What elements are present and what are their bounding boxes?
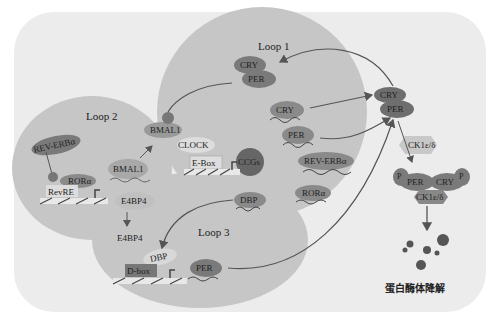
degradation-label: 蛋白酶体降解 <box>385 282 445 294</box>
ccgs-label: CCGs <box>238 157 261 167</box>
clock-label: CLOCK <box>178 140 209 150</box>
loop2-bmal1-label: BMAL1 <box>113 164 144 174</box>
kinase-label: CK1ε/δ <box>408 140 436 150</box>
cyto-per-label: PER <box>387 104 404 114</box>
degradation-dot <box>407 241 414 248</box>
ebox-label: E-Box <box>192 158 216 168</box>
cyto-cry-label: CRY <box>380 90 399 100</box>
degradation-dot <box>437 234 449 246</box>
degradation-dot <box>416 260 426 270</box>
loop2-label: Loop 2 <box>86 110 117 122</box>
loop1-per-mrna-label: PER <box>288 130 305 140</box>
dbox-label: D-box <box>127 266 150 276</box>
degradation-dot <box>435 251 440 256</box>
loop1-rev-erba-label: REV-ERBα <box>304 156 347 166</box>
loop3-label: Loop 3 <box>198 226 230 238</box>
bmal1-label: BMAL1 <box>150 125 181 135</box>
bmal1-inhibition-node <box>162 112 174 124</box>
phospho-p-right-label: P <box>459 172 464 181</box>
loop3-per-label: PER <box>196 263 213 273</box>
loop2-e4bp4-label: E4BP4 <box>121 196 147 206</box>
diagram-canvas: Loop 1 Loop 2 Loop 3 CRY PER CRY PER REV… <box>0 0 498 320</box>
loop1-per-label: PER <box>248 74 265 84</box>
loop1-dbp-label: DBP <box>240 195 258 205</box>
phospho-per-label: PER <box>407 177 424 187</box>
revre-label: RevRE <box>48 187 75 197</box>
loop2-repression-node <box>48 172 58 182</box>
loop3-e4bp4-label: E4BP4 <box>117 233 143 243</box>
loop2-rora-label: RORα <box>68 176 92 186</box>
phospho-cry-label: CRY <box>436 177 455 187</box>
loop1-cry-label: CRY <box>240 60 259 70</box>
loop1-rora-label: RORα <box>302 188 326 198</box>
phospho-kinase-label: CK1ε/δ <box>416 192 444 202</box>
degradation-dot <box>403 248 408 253</box>
degradation-dot <box>423 246 431 254</box>
loop1-cry-mrna-label: CRY <box>276 105 295 115</box>
loop1-label: Loop 1 <box>258 40 289 52</box>
